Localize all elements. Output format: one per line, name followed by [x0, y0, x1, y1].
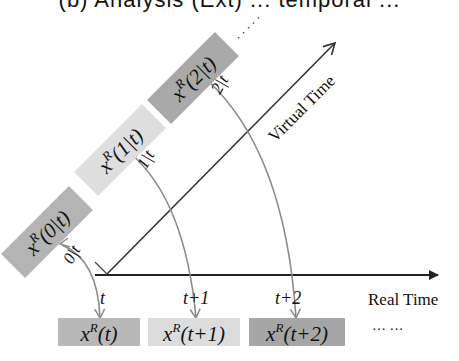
virtual-box-1: xR(1|t) — [74, 104, 166, 196]
real-box-label: xR(t) — [79, 320, 117, 346]
virtual-ellipsis: · · · · · — [232, 12, 265, 45]
real-ellipsis: ··· ··· — [372, 322, 403, 337]
origin-tick — [95, 262, 107, 274]
tick-label-t-plus-1: t+1 — [183, 288, 209, 308]
virtual-real-time-diagram: Real Time Virtual Time xR(0|t)xR(1|t)xR(… — [0, 0, 459, 361]
real-box-label: xR(t+1) — [162, 320, 225, 346]
real-box-label: xR(t+2) — [265, 320, 328, 346]
real-time-label: Real Time — [368, 290, 438, 309]
real-box-2: xR(t+2) — [249, 318, 345, 346]
real-box-0: xR(t) — [58, 318, 140, 346]
virtual-time-label: Virtual Time — [264, 71, 339, 146]
real-box-1: xR(t+1) — [148, 318, 240, 346]
tick-label-t: t — [100, 288, 106, 308]
tick-label-t-plus-2: t+2 — [275, 288, 301, 308]
virtual-box-0: xR(0|t) — [1, 186, 93, 278]
